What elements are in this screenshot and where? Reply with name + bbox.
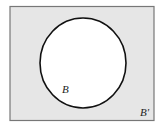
set-b-label: B	[62, 83, 69, 95]
set-b-circle	[40, 18, 126, 108]
venn-diagram: B B'	[0, 0, 159, 128]
complement-label: B'	[140, 106, 150, 118]
